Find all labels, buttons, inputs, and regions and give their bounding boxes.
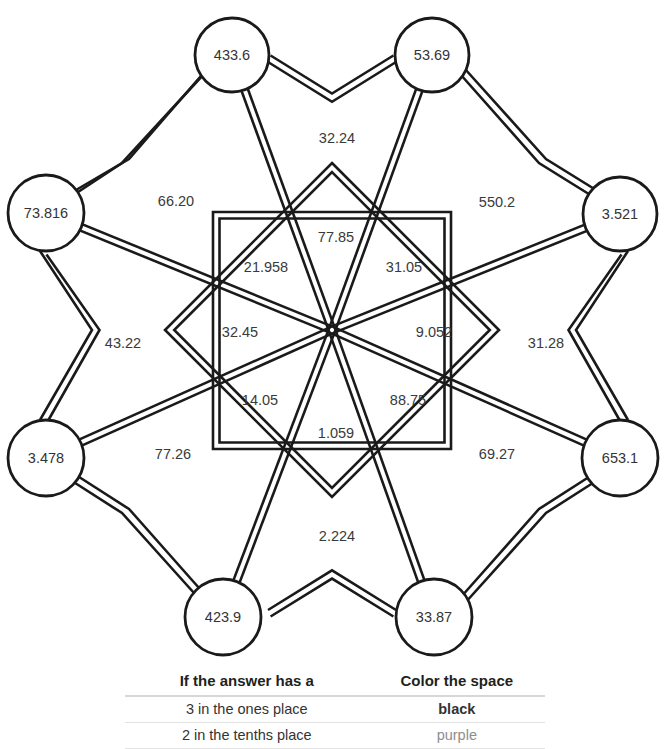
outer-link — [268, 62, 396, 102]
outer-link — [576, 251, 628, 420]
outer-link — [569, 255, 622, 424]
table-row: 2 in the tenths place purple — [125, 723, 545, 749]
node-label-top-right: 53.69 — [414, 47, 450, 63]
outer-link — [40, 251, 92, 420]
outer-link — [76, 69, 207, 190]
node-label-top-left: 433.6 — [214, 47, 250, 63]
outer-link — [465, 481, 596, 603]
inner-label-upper-right: 31.05 — [386, 259, 422, 275]
key-table-element: If the answer has a Color the space 3 in… — [125, 668, 545, 749]
spoke-line — [220, 329, 329, 616]
space-label-left: 43.22 — [105, 335, 141, 351]
key-header-color: Color the space — [369, 668, 545, 696]
space-label-right: 31.28 — [528, 335, 564, 351]
outer-link — [72, 75, 203, 196]
key-color-black: black — [369, 696, 545, 723]
outer-link — [47, 255, 100, 424]
outer-link — [268, 570, 396, 610]
space-label-top: 32.24 — [319, 130, 355, 146]
node-label-right-upper: 3.521 — [602, 206, 638, 222]
node-label-left-lower: 3.478 — [28, 450, 64, 466]
table-row: 3 in the ones place black — [125, 696, 545, 723]
key-table-head: If the answer has a Color the space — [125, 668, 545, 696]
star-puzzle-figure: 433.6 53.69 73.816 3.521 3.478 653.1 423… — [0, 0, 668, 660]
spoke-line — [331, 211, 619, 327]
inner-label-right: 9.052 — [416, 324, 452, 340]
spoke-line — [335, 329, 437, 616]
space-label-upper-left: 66.20 — [158, 193, 194, 209]
outer-link — [465, 69, 596, 190]
star-puzzle-svg: 433.6 53.69 73.816 3.521 3.478 653.1 423… — [0, 0, 668, 660]
inner-label-lower-right: 88.75 — [390, 392, 426, 408]
node-label-bottom-right: 33.87 — [416, 609, 452, 625]
color-key-table: If the answer has a Color the space 3 in… — [125, 668, 545, 749]
key-condition-tenths-place: 2 in the tenths place — [125, 723, 369, 749]
key-header-row: If the answer has a Color the space — [125, 668, 545, 696]
inner-label-left: 32.45 — [222, 324, 258, 340]
space-label-upper-right: 550.2 — [479, 194, 515, 210]
space-label-lower-left: 77.26 — [155, 446, 191, 462]
key-header-condition: If the answer has a — [125, 668, 369, 696]
key-table-body: 3 in the ones place black 2 in the tenth… — [125, 696, 545, 749]
inner-label-upper-left: 21.958 — [244, 259, 288, 275]
inner-label-lower-left: 14.05 — [242, 392, 278, 408]
key-condition-ones-place: 3 in the ones place — [125, 696, 369, 723]
space-label-lower-right: 69.27 — [479, 446, 515, 462]
inner-label-top: 77.85 — [318, 229, 354, 245]
inner-label-bottom: 1.059 — [318, 425, 354, 441]
outer-space-labels: 32.24 66.20 550.2 43.22 31.28 77.26 69.2… — [105, 130, 564, 544]
node-label-bottom-left: 423.9 — [205, 609, 241, 625]
node-label-right-lower: 653.1 — [602, 450, 638, 466]
outer-link — [72, 481, 203, 603]
node-label-left-upper: 73.816 — [24, 205, 68, 221]
space-label-bottom: 2.224 — [319, 528, 355, 544]
key-color-purple: purple — [369, 723, 545, 749]
